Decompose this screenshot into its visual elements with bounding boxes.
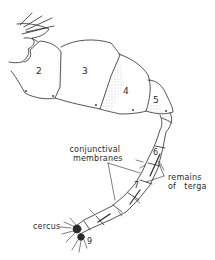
segment-label-7: 7 <box>134 182 139 190</box>
label-conjunctival-membranes: conjunctival membranes <box>67 146 123 163</box>
abdomen-diagram <box>0 0 215 260</box>
posterior-tube <box>80 113 172 234</box>
label-remains: remains <box>168 174 207 182</box>
leader-lines <box>60 161 164 228</box>
label-cercus: cercus <box>33 223 60 231</box>
label-membranes: membranes <box>67 155 123 163</box>
cercus-structure <box>62 218 87 252</box>
segment-label-4: 4 <box>123 87 129 96</box>
label-remains-of-terga: remains of terga <box>168 174 207 191</box>
segment-label-3: 3 <box>82 67 88 76</box>
segment-label-9: 9 <box>87 238 92 246</box>
segment-label-6: 6 <box>153 149 158 157</box>
label-conjunctival: conjunctival <box>67 146 123 154</box>
segment-label-5: 5 <box>153 96 159 105</box>
segment-1-outline <box>9 24 49 63</box>
label-of-terga: of terga <box>168 183 207 191</box>
segment-label-2: 2 <box>36 67 42 76</box>
